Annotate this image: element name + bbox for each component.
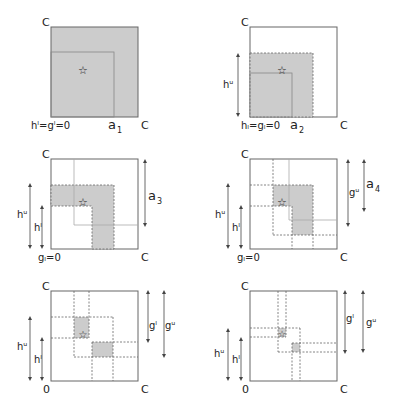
a-label: a: [108, 117, 116, 132]
axis-top-label: C: [241, 148, 249, 161]
a-subscript: 1: [117, 126, 122, 135]
h-lower-label: hˡ: [34, 222, 42, 233]
shaded-region: [250, 53, 313, 117]
star-icon: ☆: [277, 64, 287, 77]
a-label: a: [366, 176, 374, 191]
g-upper-label: gᵘ: [349, 187, 359, 198]
region-box: [51, 291, 138, 381]
axis-right-label: C: [340, 383, 348, 396]
axis-right-label: C: [340, 251, 348, 264]
axis-top-label: C: [42, 148, 50, 161]
panel-a2: ☆ hᵘ C hₗ=gₗ=0 a 2 C: [223, 16, 348, 135]
origin-label: gₗ=0: [237, 252, 260, 263]
axis-top-label: C: [241, 280, 249, 293]
panel-a3: ☆ hᵘ hˡ a 3 C gₗ=0 C: [17, 148, 162, 264]
origin-label: gₗ=0: [38, 252, 61, 263]
g-upper-label: gᵘ: [366, 317, 376, 328]
diagram-canvas: ☆ C hˡ=gˡ=0 a 1 C ☆ hᵘ C hₗ=gₗ=0 a 2 C ☆…: [0, 0, 394, 411]
h-upper-label: hᵘ: [214, 348, 224, 359]
axis-top-label: C: [42, 16, 50, 29]
panel-a5: ☆ hᵘ hˡ gˡ gᵘ C 0 C: [17, 280, 175, 396]
origin-label: 0: [242, 383, 249, 396]
g-upper-label: gᵘ: [165, 320, 175, 331]
axis-right-label: C: [141, 119, 149, 132]
h-upper-label: hᵘ: [17, 209, 27, 220]
h-upper-label: hᵘ: [215, 209, 225, 220]
h-lower-label: hˡ: [232, 354, 240, 365]
shaded-region-lower: [292, 343, 300, 352]
origin-label: 0: [43, 383, 50, 396]
panel-a1: ☆ C hˡ=gˡ=0 a 1 C: [31, 16, 149, 135]
panel-a6: ☆ hᵘ hˡ gˡ gᵘ C 0 C: [214, 280, 376, 396]
axis-right-label: C: [340, 119, 348, 132]
g-lower-label: gˡ: [149, 320, 157, 331]
star-icon: ☆: [78, 196, 88, 209]
h-lower-label: hˡ: [34, 354, 42, 365]
star-icon: ☆: [79, 329, 88, 340]
a-subscript: 3: [157, 197, 162, 206]
h-upper-label: hᵘ: [17, 341, 27, 352]
axis-right-label: C: [141, 383, 149, 396]
axis-right-label: C: [141, 251, 149, 264]
axis-top-label: C: [241, 16, 249, 29]
h-lower-label: hˡ: [232, 222, 240, 233]
h-upper-label: hᵘ: [223, 79, 233, 90]
origin-label: hₗ=gₗ=0: [241, 120, 280, 131]
star-icon: ☆: [277, 196, 287, 209]
a-subscript: 2: [299, 126, 304, 135]
a-label: a: [148, 188, 156, 203]
panel-a4: ☆ hᵘ hˡ gᵘ a 4 C gₗ=0 C: [215, 148, 380, 264]
g-lower-label: gˡ: [346, 313, 354, 324]
a-subscript: 4: [375, 185, 380, 194]
a-label: a: [290, 117, 298, 132]
star-icon: ☆: [278, 329, 286, 339]
axis-top-label: C: [42, 280, 50, 293]
region-box: [250, 291, 337, 381]
star-icon: ☆: [78, 64, 88, 77]
origin-label: hˡ=gˡ=0: [31, 120, 70, 131]
shaded-region-lower: [92, 342, 113, 357]
region-box: [51, 27, 138, 117]
